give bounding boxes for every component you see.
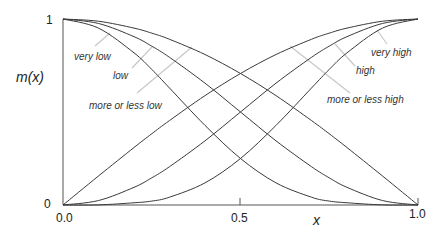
label-low: low xyxy=(113,70,129,81)
y-tick-label-0: 0 xyxy=(44,197,51,211)
x-tick-label-1-0: 1.0 xyxy=(409,207,426,221)
leader-very-high xyxy=(377,30,387,44)
x-tick-label-0-0: 0.0 xyxy=(56,211,73,225)
x-tick-label-0-5: 0.5 xyxy=(231,211,248,225)
label-more-or-less-low: more or less low xyxy=(89,100,163,111)
y-axis-title: m(x) xyxy=(16,69,44,85)
label-high: high xyxy=(356,65,375,76)
label-more-or-less-high: more or less high xyxy=(327,94,404,105)
curve-high xyxy=(63,19,418,205)
curves-group xyxy=(63,19,418,205)
membership-function-chart: 1 0 0.0 0.5 1.0 m(x) x very low low more… xyxy=(0,0,439,238)
label-very-low: very low xyxy=(74,51,111,62)
x-axis-title: x xyxy=(312,212,321,228)
leader-low xyxy=(132,47,152,68)
leader-more-or-less-high xyxy=(290,46,350,93)
label-very-high: very high xyxy=(371,47,412,58)
leader-very-low xyxy=(95,33,110,46)
y-tick-label-1: 1 xyxy=(46,13,53,27)
